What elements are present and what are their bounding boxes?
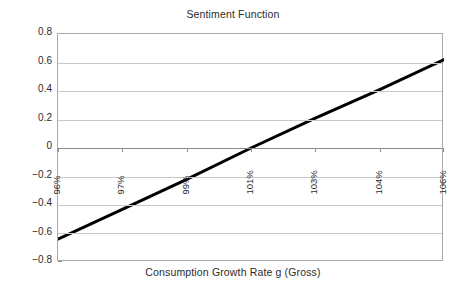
gridline bbox=[58, 205, 442, 206]
y-axis-tick-label: 0 bbox=[8, 141, 52, 151]
x-axis-tick-label: 103% bbox=[309, 170, 319, 194]
x-axis-tick-mark bbox=[443, 148, 444, 152]
y-axis-tick-label: 0.2 bbox=[8, 113, 52, 123]
x-axis-tick-mark bbox=[315, 148, 316, 152]
x-axis-title: Consumption Growth Rate g (Gross) bbox=[0, 266, 466, 278]
x-axis-tick-mark bbox=[187, 148, 188, 152]
y-axis-tick-label: −0.4 bbox=[8, 198, 52, 208]
y-axis-labels: 0.80.60.40.20−0.2−0.4−0.6−0.8 bbox=[6, 0, 52, 290]
x-axis-tick-label: 99% bbox=[180, 175, 190, 194]
chart-title: Sentiment Function bbox=[0, 8, 466, 20]
x-axis-tick-mark bbox=[251, 148, 252, 152]
x-axis-tick-label: 104% bbox=[373, 170, 383, 194]
chart-container: Sentiment Function 0.80.60.40.20−0.2−0.4… bbox=[0, 0, 466, 290]
x-axis-tick-label: 97% bbox=[116, 175, 126, 194]
y-axis-tick-label: 0.4 bbox=[8, 84, 52, 94]
y-axis-tick-label: 0.8 bbox=[8, 27, 52, 37]
gridline bbox=[58, 148, 442, 149]
gridline bbox=[58, 63, 442, 64]
gridline bbox=[58, 233, 442, 234]
y-axis-tick-label: 0.6 bbox=[8, 56, 52, 66]
gridline bbox=[58, 120, 442, 121]
y-axis-tick-label: −0.8 bbox=[8, 255, 52, 265]
plot-area bbox=[57, 33, 443, 261]
x-axis-tick-mark bbox=[380, 148, 381, 152]
y-axis-tick-label: −0.2 bbox=[8, 170, 52, 180]
y-axis-tick-label: −0.6 bbox=[8, 227, 52, 237]
gridline bbox=[58, 91, 442, 92]
x-axis-tick-label: 101% bbox=[245, 170, 255, 194]
x-axis-tick-mark bbox=[58, 148, 59, 152]
x-axis-tick-label: 96% bbox=[52, 175, 62, 194]
x-axis-tick-label: 106% bbox=[438, 170, 448, 194]
x-axis-tick-mark bbox=[122, 148, 123, 152]
